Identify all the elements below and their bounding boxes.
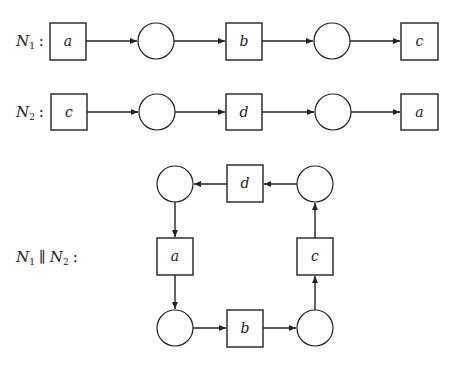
transition-label: a — [64, 33, 72, 49]
transition-label: a — [415, 104, 423, 120]
place-bottom-right — [297, 310, 333, 346]
transition-label: c — [416, 33, 424, 49]
net-n2-label: N2: — [15, 103, 44, 122]
place — [315, 94, 351, 130]
transition-label: b — [240, 33, 249, 49]
net-n2: N2: c d a — [15, 94, 438, 130]
transition-label: c — [311, 248, 319, 264]
petri-net-diagram: N1: a b c N2: c d a N1∥N — [0, 0, 453, 365]
transition-label: a — [171, 248, 179, 264]
place — [138, 23, 174, 59]
net-composition: N1∥N2: d a b c — [15, 165, 333, 347]
place-top-left — [157, 166, 193, 202]
transition-label: d — [240, 104, 249, 120]
transition-label: c — [65, 104, 73, 120]
place — [139, 94, 175, 130]
net-n1-label: N1: — [15, 32, 44, 51]
place — [314, 23, 350, 59]
transition-label: d — [241, 175, 250, 191]
composition-label: N1∥N2: — [15, 248, 78, 267]
place-top-right — [297, 166, 333, 202]
net-n1: N1: a b c — [15, 23, 438, 60]
transition-label: b — [241, 320, 250, 336]
place-bottom-left — [157, 310, 193, 346]
